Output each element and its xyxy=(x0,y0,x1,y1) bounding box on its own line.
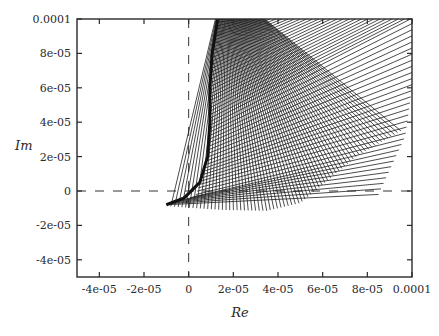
y-tick-label: 0 xyxy=(64,185,71,198)
family-line xyxy=(263,19,394,134)
family-line xyxy=(252,19,347,164)
y-tick-label: 6e-05 xyxy=(40,82,71,95)
x-tick-label: 2e-05 xyxy=(218,283,249,296)
family-line xyxy=(180,172,389,200)
y-tick-label: -4e-05 xyxy=(36,254,71,267)
y-tick-label: 4e-05 xyxy=(40,116,71,129)
x-tick-label: 8e-05 xyxy=(352,283,383,296)
y-axis-title: Im xyxy=(14,138,32,153)
x-tick-label: 0.0001 xyxy=(393,283,432,296)
family-line xyxy=(196,144,401,194)
y-tick-label: 0.0001 xyxy=(33,13,72,26)
family-steep xyxy=(171,19,401,211)
x-tick-label: 4e-05 xyxy=(262,283,293,296)
figure: -4e-05-2e-0502e-054e-056e-058e-050.0001 … xyxy=(0,0,439,336)
x-tick-label: -2e-05 xyxy=(127,283,162,296)
x-tick-label: -4e-05 xyxy=(82,283,117,296)
y-tick-label: 2e-05 xyxy=(40,151,71,164)
y-tick-label: 8e-05 xyxy=(40,47,71,60)
y-tick-label: -2e-05 xyxy=(36,219,71,232)
line-families xyxy=(166,19,412,211)
x-axis-title: Re xyxy=(230,305,249,320)
x-tick-label: 0 xyxy=(185,283,192,296)
x-tick-label: 6e-05 xyxy=(307,283,338,296)
